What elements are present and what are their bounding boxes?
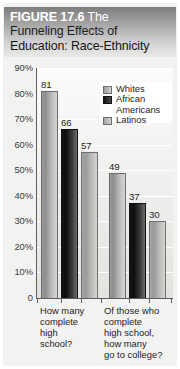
x-tick-4 [129, 299, 130, 303]
legend-swatch-whites-icon [103, 86, 112, 94]
legend-label-african-americans: AfricanAmericans [116, 94, 160, 115]
y-tick-40: 40% [14, 191, 33, 201]
bar-group1-whites[interactable] [41, 91, 58, 298]
x-category-label-2: Of those who complete high school, how m… [104, 305, 176, 360]
legend-swatch-african-americans-icon [103, 96, 112, 104]
legend-swatch-latinos-icon [103, 117, 112, 125]
x-category-1-line-2: complete [40, 316, 100, 327]
legend-label-african-line1: African [116, 93, 145, 104]
x-category-1-line-4: school? [40, 338, 100, 349]
x-category-1-line-3: high [40, 327, 100, 338]
y-tick-80: 80% [14, 89, 33, 99]
x-tick-3 [101, 299, 102, 303]
bar-value-group1-whites: 81 [41, 80, 52, 90]
bar-group1-latinos[interactable] [81, 152, 98, 298]
bar-group2-whites[interactable] [109, 173, 126, 298]
y-tick-10: 10% [14, 267, 33, 277]
bar-group1-african[interactable] [61, 129, 78, 298]
y-tick-60: 60% [14, 140, 33, 150]
x-tick-2 [81, 299, 82, 303]
x-tick-1 [61, 299, 62, 303]
figure-number: 17.6 [60, 10, 84, 24]
x-category-2-line-5: go to college? [104, 349, 176, 360]
y-tick-70: 70% [14, 114, 33, 124]
x-category-1-line-1: How many [40, 305, 100, 316]
legend-label-african-line2: Americans [116, 104, 160, 115]
x-category-label-1: How many complete high school? [40, 305, 100, 349]
y-tick-20: 20% [14, 242, 33, 252]
x-category-2-line-4: how many [104, 338, 176, 349]
y-tick-50: 50% [14, 165, 33, 175]
legend: Whites AfricanAmericans Latinos [100, 82, 172, 123]
y-tick-0: 0 [28, 293, 33, 303]
bar-group2-latinos[interactable] [149, 221, 166, 298]
bar-group2-african[interactable] [129, 203, 146, 298]
y-tick-30: 30% [14, 216, 33, 226]
y-axis-labels: 90% 80% 70% 60% 50% 40% 30% 20% 10% 0 [0, 0, 36, 369]
x-category-2-line-1: Of those who [104, 305, 176, 316]
bar-value-group1-african: 66 [61, 118, 72, 128]
x-tick-5 [149, 299, 150, 303]
legend-item-latinos[interactable]: Latinos [103, 115, 172, 125]
bar-value-group2-whites: 49 [109, 162, 120, 172]
bar-value-group1-latinos: 57 [81, 141, 92, 151]
x-category-2-line-2: complete [104, 316, 176, 327]
figure-panel: FIGURE 17.6 The Funneling Effects of Edu… [0, 0, 180, 369]
bar-value-group2-african: 37 [129, 192, 140, 202]
y-tick-90: 90% [14, 63, 33, 73]
x-category-2-line-3: high school, [104, 327, 176, 338]
figure-title-lead: The [88, 10, 109, 24]
legend-item-african-americans[interactable]: AfricanAmericans [103, 94, 172, 115]
x-tick-0 [37, 299, 38, 303]
bar-value-group2-latinos: 30 [149, 210, 160, 220]
x-tick-6 [171, 299, 172, 303]
gridline-90 [37, 68, 173, 69]
legend-label-latinos: Latinos [116, 115, 146, 125]
